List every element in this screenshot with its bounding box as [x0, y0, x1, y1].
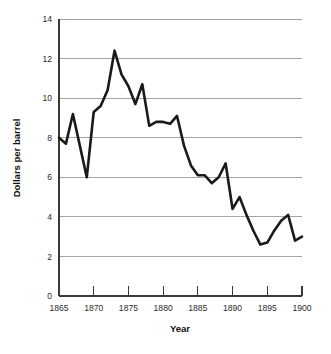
x-tick-label-1895: 1895	[258, 303, 277, 313]
y-tick-label-10: 10	[42, 93, 52, 103]
y-tick-label-0: 0	[47, 291, 52, 301]
x-tick-label-1880: 1880	[154, 303, 173, 313]
x-axis-tick-labels: 18651870187518801885189018951900	[49, 303, 311, 313]
y-tick-label-14: 14	[42, 14, 52, 24]
gridlines	[59, 19, 302, 296]
x-tick-label-1890: 1890	[223, 303, 242, 313]
y-tick-label-8: 8	[47, 133, 52, 143]
x-tick-label-1865: 1865	[49, 303, 68, 313]
line-chart: 02468101214 1865187018751880188518901895…	[0, 0, 331, 354]
x-tick-label-1870: 1870	[84, 303, 103, 313]
y-tick-label-4: 4	[47, 212, 52, 222]
x-tick-label-1885: 1885	[188, 303, 207, 313]
x-axis-tickmarks	[94, 286, 268, 296]
series-line-0	[59, 51, 302, 245]
chart-container: 02468101214 1865187018751880188518901895…	[0, 0, 331, 354]
x-tick-label-1900: 1900	[292, 303, 311, 313]
axis-lines	[59, 19, 302, 296]
y-axis-tick-labels: 02468101214	[42, 14, 52, 301]
y-tick-label-2: 2	[47, 252, 52, 262]
data-series-group	[59, 51, 302, 245]
x-tick-label-1875: 1875	[119, 303, 138, 313]
x-axis-title: Year	[170, 323, 190, 334]
y-tick-label-6: 6	[47, 172, 52, 182]
y-axis-title: Dollars per barrel	[11, 119, 22, 198]
y-tick-label-12: 12	[42, 54, 52, 64]
